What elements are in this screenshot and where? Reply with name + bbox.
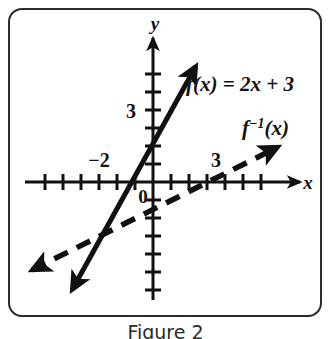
coordinate-plot: x y 0 3 −2 3 f(x) = 2x + 3 f−1(x) [0, 0, 331, 339]
f-inverse-exponent: −1 [249, 116, 264, 131]
figure-container: x y 0 3 −2 3 f(x) = 2x + 3 f−1(x) Figure… [0, 0, 331, 339]
function-label-f: f(x) = 2x + 3 [186, 72, 294, 96]
x-tick-label-3: 3 [211, 149, 221, 171]
origin-label: 0 [138, 186, 148, 207]
figure-caption: Figure 2 [0, 321, 331, 339]
x-tick-label-neg2: −2 [88, 149, 109, 171]
x-axis-label: x [302, 172, 313, 193]
f-inverse-arg: (x) [264, 116, 289, 140]
y-tick-label-3: 3 [126, 100, 136, 122]
function-label-f-inverse: f−1(x) [242, 116, 289, 140]
y-axis-label: y [149, 13, 160, 34]
